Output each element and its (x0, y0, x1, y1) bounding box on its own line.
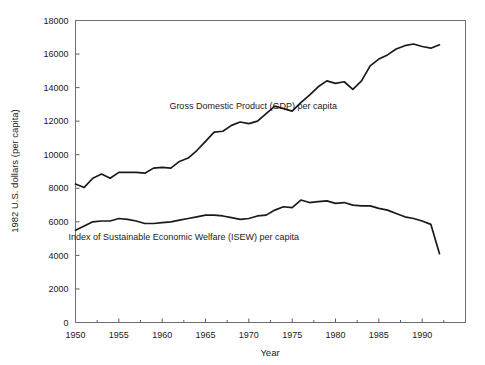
y-tick-label: 4000 (48, 251, 68, 261)
series-line-gdp (76, 44, 440, 187)
isew-gdp-line-chart: 0200040006000800010000120001400016000180… (0, 0, 485, 365)
y-tickmarks (76, 54, 80, 289)
chart-page: 0200040006000800010000120001400016000180… (0, 0, 485, 365)
y-tick-label: 12000 (43, 116, 68, 126)
x-tick-label: 1990 (412, 330, 432, 340)
y-tick-label: 18000 (43, 16, 68, 26)
y-tick-label: 2000 (48, 284, 68, 294)
data-series (76, 44, 440, 254)
x-axis-title: Year (260, 347, 279, 358)
y-tick-label: 16000 (43, 49, 68, 59)
y-tick-label: 6000 (48, 217, 68, 227)
y-axis-title: 1982 U.S. dollars (per capita) (9, 109, 20, 233)
y-tick-label: 14000 (43, 83, 68, 93)
y-tick-label: 0 (63, 318, 68, 328)
series-annotation-gdp: Gross Domestic Product (GDP) per capita (169, 101, 337, 111)
series-annotation-isew: Index of Sustainable Economic Welfare (I… (69, 232, 299, 242)
x-tick-label: 1975 (282, 330, 302, 340)
x-tick-label: 1970 (239, 330, 259, 340)
x-tick-label: 1955 (109, 330, 129, 340)
series-line-isew (76, 200, 440, 254)
x-tick-labels: 195019551960196519701975198019851990 (65, 330, 432, 340)
x-tick-label: 1950 (65, 330, 85, 340)
x-tick-label: 1965 (195, 330, 215, 340)
y-tick-labels: 0200040006000800010000120001400016000180… (43, 16, 68, 328)
x-tick-label: 1960 (152, 330, 172, 340)
y-tick-label: 10000 (43, 150, 68, 160)
y-tick-label: 8000 (48, 183, 68, 193)
x-tickmarks (76, 319, 423, 323)
x-tick-label: 1980 (325, 330, 345, 340)
x-tick-label: 1985 (369, 330, 389, 340)
